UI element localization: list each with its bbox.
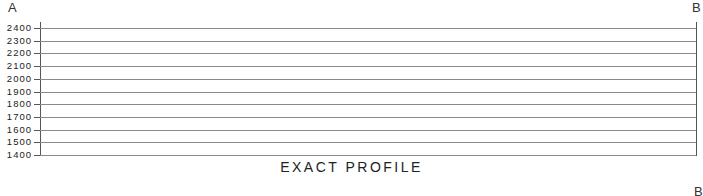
y-tick-label: 1700 [2,112,32,122]
tick-1700 [34,117,40,118]
gridline-2300 [40,41,696,42]
gridline-2400 [40,28,696,29]
y-tick-label: 2100 [2,61,32,71]
gridline-2100 [40,66,696,67]
gridline-1600 [40,130,696,131]
tick-1800 [34,104,40,105]
gridline-1400 [40,155,696,156]
gridline-1900 [40,92,696,93]
tick-1600 [34,130,40,131]
right-axis [696,22,697,156]
tick-2000 [34,79,40,80]
y-tick-label: 1800 [2,99,32,109]
y-tick-label: 2300 [2,36,32,46]
gridline-2000 [40,79,696,80]
y-tick-label: 2200 [2,48,32,58]
profile-title: EXACT PROFILE [0,159,703,175]
y-tick-label: 1600 [2,125,32,135]
tick-1500 [34,142,40,143]
tick-2400 [34,28,40,29]
gridline-2200 [40,53,696,54]
left-axis [40,22,41,156]
tick-2100 [34,66,40,67]
tick-1400 [34,155,40,156]
tick-2300 [34,41,40,42]
y-tick-label: 2000 [2,74,32,84]
start-point-label: A [8,0,17,15]
end-point-label: B [692,0,701,15]
gridline-1500 [40,142,696,143]
next-profile-end-label: B [694,184,703,196]
y-tick-label: 2400 [2,23,32,33]
tick-2200 [34,53,40,54]
tick-1900 [34,92,40,93]
y-tick-label: 1900 [2,87,32,97]
gridline-1700 [40,117,696,118]
y-tick-label: 1500 [2,137,32,147]
gridline-1800 [40,104,696,105]
